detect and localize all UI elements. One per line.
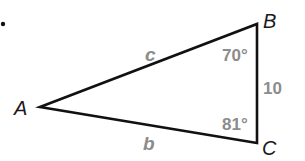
angle-c-measure: 81° xyxy=(222,115,248,134)
vertex-label-b: B xyxy=(263,10,276,32)
angle-b-measure: 70° xyxy=(222,46,248,65)
bullet-dot xyxy=(1,22,5,26)
vertex-label-c: C xyxy=(262,137,277,159)
side-length-bc: 10 xyxy=(263,79,282,98)
side-label-b: b xyxy=(143,133,155,154)
vertex-label-a: A xyxy=(13,97,27,119)
triangle-diagram: A B C c b 10 70° 81° xyxy=(0,0,305,161)
side-label-c: c xyxy=(145,44,156,65)
